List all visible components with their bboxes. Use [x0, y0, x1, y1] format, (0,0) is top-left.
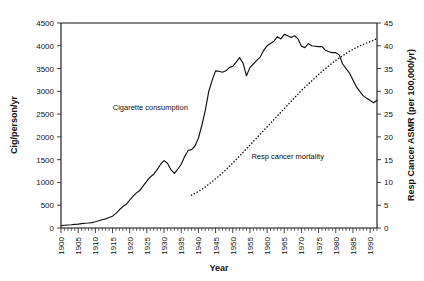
x-axis-tick-label: 1940: [194, 236, 203, 254]
respiratory-cancer-cigarette-chart: 050010001500200025003000350040004500 051…: [0, 0, 424, 281]
y-axis-right-tick-label: 30: [384, 87, 393, 96]
y-axis-left-tick-label: 3000: [36, 87, 54, 96]
x-axis-ticks: [61, 228, 377, 233]
x-axis-tick-label: 1960: [263, 236, 272, 254]
y-axis-right-ticks: [377, 23, 381, 228]
y-axis-right-tick-label: 0: [384, 224, 389, 233]
y-axis-left-tick-label: 500: [41, 201, 55, 210]
x-axis-tick-label: 1935: [177, 236, 186, 254]
x-axis-tick-label: 1980: [332, 236, 341, 254]
chart-container: 050010001500200025003000350040004500 051…: [0, 0, 424, 281]
y-axis-left-ticks: [57, 23, 61, 228]
x-axis-tick-label: 1945: [212, 236, 221, 254]
y-axis-left-tick-label: 1000: [36, 178, 54, 187]
y-axis-left-tick-label: 2500: [36, 110, 54, 119]
x-axis-tick-label: 1920: [126, 236, 135, 254]
y-axis-left-tick-label: 4500: [36, 19, 54, 28]
x-axis-tick-label: 1930: [160, 236, 169, 254]
y-axis-right-title: Resp Cancer ASMR (per 100,000/yr): [406, 49, 416, 201]
y-axis-left-tick-label: 1500: [36, 156, 54, 165]
series-annotation: Resp cancer mortality: [251, 152, 324, 161]
x-axis-tick-label: 1950: [229, 236, 238, 254]
x-axis-tick-label: 1910: [91, 236, 100, 254]
x-axis-tick-label: 1900: [57, 236, 66, 254]
y-axis-left-tick-label: 0: [50, 224, 55, 233]
y-axis-right-tick-label: 45: [384, 19, 393, 28]
x-axis-tick-label: 1965: [280, 236, 289, 254]
y-axis-right-tick-label: 10: [384, 178, 393, 187]
y-axis-left-tick-label: 3500: [36, 65, 54, 74]
y-axis-right-tick-label: 40: [384, 42, 393, 51]
x-axis-tick-label: 1990: [366, 236, 375, 254]
x-axis-tick-label: 1915: [109, 236, 118, 254]
x-axis-tick-label: 1925: [143, 236, 152, 254]
y-axis-right-tick-label: 5: [384, 201, 389, 210]
y-axis-right-tick-label: 20: [384, 133, 393, 142]
series-annotation: Cigarette consumption: [113, 103, 188, 112]
x-axis-tick-label: 1955: [246, 236, 255, 254]
x-axis-tick-label: 1970: [297, 236, 306, 254]
y-axis-left-labels: 050010001500200025003000350040004500: [36, 19, 54, 233]
y-axis-right-labels: 051015202530354045: [384, 19, 393, 233]
plot-frame: [61, 23, 377, 228]
plot-background: [61, 23, 377, 228]
y-axis-right-tick-label: 35: [384, 65, 393, 74]
y-axis-left-title: Cig/person/yr: [9, 95, 19, 154]
y-axis-left-tick-label: 2000: [36, 133, 54, 142]
x-axis-title: Year: [209, 263, 229, 273]
y-axis-left-tick-label: 4000: [36, 42, 54, 51]
x-axis-tick-label: 1985: [349, 236, 358, 254]
x-axis-labels: 1900190519101915192019251930193519401945…: [57, 236, 375, 254]
x-axis-tick-label: 1975: [315, 236, 324, 254]
x-axis-tick-label: 1905: [74, 236, 83, 254]
y-axis-right-tick-label: 25: [384, 110, 393, 119]
y-axis-right-tick-label: 15: [384, 156, 393, 165]
